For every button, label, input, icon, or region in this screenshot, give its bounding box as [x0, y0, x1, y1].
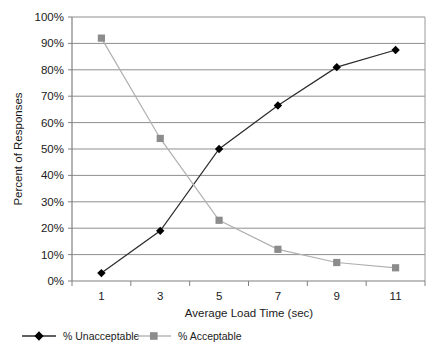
- chart-canvas: 0%10%20%30%40%50%60%70%80%90%100% 135791…: [0, 0, 442, 348]
- y-tick-label: 0%: [47, 275, 64, 287]
- y-tick-label: 90%: [41, 37, 64, 49]
- data-point-square: [98, 35, 105, 42]
- x-tick-label: 5: [216, 290, 222, 302]
- x-tick-label: 3: [157, 290, 163, 302]
- legend-label-acceptable: % Acceptable: [178, 330, 242, 342]
- y-tick-label: 80%: [41, 64, 64, 76]
- data-point-square: [274, 246, 281, 253]
- x-tick-label: 1: [98, 290, 104, 302]
- x-tick-label: 11: [390, 290, 402, 302]
- legend-square-marker-icon: [150, 332, 158, 340]
- y-tick-label: 30%: [41, 196, 64, 208]
- y-tick-label: 100%: [35, 11, 64, 23]
- y-tick-label: 70%: [41, 90, 64, 102]
- data-point-square: [392, 264, 399, 271]
- data-point-square: [215, 217, 222, 224]
- y-tick-label: 20%: [41, 222, 64, 234]
- y-tick-label: 40%: [41, 169, 64, 181]
- data-point-square: [333, 259, 340, 266]
- data-point-square: [157, 135, 164, 142]
- y-tick-label: 60%: [41, 117, 64, 129]
- x-tick-label: 9: [334, 290, 340, 302]
- line-chart: 0%10%20%30%40%50%60%70%80%90%100% 135791…: [0, 0, 442, 348]
- y-axis-title: Percent of Responses: [12, 92, 24, 205]
- y-tick-label: 50%: [41, 143, 64, 155]
- x-axis-title: Average Load Time (sec): [185, 307, 313, 319]
- legend-label-unacceptable: % Unacceptable: [63, 330, 140, 342]
- x-tick-label: 7: [275, 290, 281, 302]
- y-tick-label: 10%: [41, 249, 64, 261]
